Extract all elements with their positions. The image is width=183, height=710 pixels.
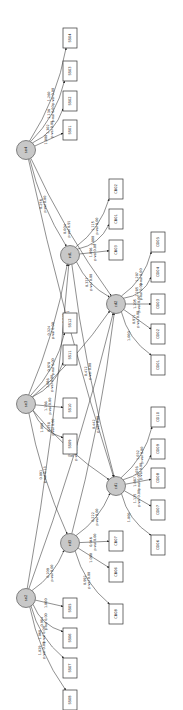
- svg-text:p-val 0.00: p-val 0.00: [51, 88, 55, 105]
- latent-node-cd1: cd1: [107, 477, 126, 496]
- observed-node-cd10: CD10: [151, 407, 165, 427]
- svg-text:CB03: CB03: [114, 245, 118, 255]
- svg-text:p-val 0.00: p-val 0.00: [136, 311, 140, 328]
- svg-text:CD07: CD07: [156, 505, 160, 515]
- svg-text:p-val 0.00: p-val 0.00: [42, 642, 46, 659]
- edge-label: 1.166p-val 0.00: [44, 398, 52, 415]
- latent-node-rd3: rd3: [61, 534, 80, 553]
- svg-text:p-val 0.00: p-val 0.00: [140, 447, 144, 464]
- svg-text:SS05: SS05: [68, 603, 72, 612]
- svg-text:1.000: 1.000: [40, 423, 44, 433]
- observed-node-cd05: CD05: [151, 232, 165, 252]
- svg-text:p-val 0.00: p-val 0.00: [51, 322, 55, 339]
- edge-label: 1.087p-val 0.00: [133, 473, 141, 490]
- svg-text:CD06: CD06: [156, 539, 160, 550]
- observed-node-ss10: SS10: [63, 398, 77, 418]
- edge-label: 0.004p-val 0.91: [63, 221, 71, 238]
- edge-label: 0.946p-val 0.00: [89, 533, 97, 550]
- svg-text:rd1: rd1: [68, 252, 72, 258]
- svg-text:SS03: SS03: [68, 66, 72, 75]
- observed-node-ss06: SS06: [63, 628, 77, 648]
- edge-label: 0.911p-val 0.00: [132, 311, 140, 328]
- svg-text:CB01: CB01: [114, 214, 118, 224]
- observed-node-cd08: CD08: [151, 468, 165, 488]
- svg-text:se2: se2: [24, 595, 28, 601]
- svg-text:CD03: CD03: [156, 299, 160, 309]
- svg-text:p-val 0.00: p-val 0.00: [51, 419, 55, 436]
- svg-text:SS04: SS04: [68, 33, 72, 43]
- svg-text:cd1: cd1: [114, 483, 118, 490]
- svg-text:p-val 0.00: p-val 0.00: [137, 490, 141, 507]
- svg-text:p-val 0.00: p-val 0.00: [87, 572, 91, 589]
- svg-text:CB02: CB02: [114, 184, 118, 194]
- svg-text:se4: se4: [24, 146, 28, 153]
- svg-text:SS08: SS08: [68, 695, 72, 705]
- svg-text:SS10: SS10: [68, 403, 72, 413]
- svg-text:SS09: SS09: [68, 439, 72, 449]
- svg-text:p-val 0.00: p-val 0.00: [137, 296, 141, 313]
- svg-text:p-val 0.00: p-val 0.00: [96, 416, 100, 433]
- latent-node-se2: se2: [17, 589, 36, 608]
- edge-label: 0.412p-val 0.00: [84, 363, 92, 380]
- observed-node-ss02: SS02: [63, 91, 77, 111]
- edge-label: 1.115p-val 0.00: [133, 490, 141, 507]
- svg-text:p-val 0.00: p-val 0.00: [50, 375, 54, 392]
- observed-node-cd04: CD04: [151, 262, 165, 282]
- observed-node-cb07: CB07: [109, 531, 123, 551]
- svg-text:1.000: 1.000: [44, 598, 48, 608]
- edge-label: 1.000: [89, 553, 93, 563]
- observed-node-ss09: SS09: [63, 434, 77, 454]
- edge-label: 1.205p-val 0.00: [133, 296, 141, 313]
- svg-text:cd2: cd2: [114, 301, 118, 308]
- edge-label: 0.978p-val 0.00: [47, 358, 55, 375]
- edge-label: 1.115p-val 0.00: [91, 217, 99, 234]
- svg-text:CB08: CB08: [114, 609, 118, 619]
- svg-text:CB06: CB06: [114, 567, 118, 577]
- edge-label: 1.000: [44, 135, 48, 145]
- svg-text:p-val 0.00: p-val 0.00: [51, 358, 55, 375]
- edge-label: 0.256p-val 0.00: [39, 196, 47, 213]
- svg-text:SS12: SS12: [68, 318, 72, 327]
- svg-text:p-val 0.00: p-val 0.00: [93, 533, 97, 550]
- edge-label: 0.222p-val 0.00: [91, 509, 99, 526]
- svg-text:p-val 0.00: p-val 0.00: [48, 398, 52, 415]
- edge-label: 1.029p-val 0.00: [38, 642, 46, 659]
- path-diagram: 1.260p-val 0.001.136p-val 0.001.302p-val…: [0, 0, 183, 710]
- svg-text:SS06: SS06: [68, 633, 72, 643]
- svg-text:CD10: CD10: [156, 411, 160, 422]
- svg-text:CD09: CD09: [156, 443, 160, 454]
- edge-label: 1.000: [127, 512, 131, 522]
- svg-text:p-val 0.00: p-val 0.00: [50, 565, 54, 582]
- svg-text:p-val 0.00: p-val 0.00: [43, 196, 47, 213]
- svg-text:SS01: SS01: [68, 125, 72, 134]
- edge-label: 0.258p-val 0.00: [47, 419, 55, 436]
- path-edge-se4-rd1: [30, 159, 67, 246]
- svg-text:CB07: CB07: [114, 536, 118, 546]
- latent-node-cd2: cd2: [107, 295, 126, 314]
- svg-text:SS11: SS11: [68, 350, 72, 359]
- observed-node-ss05: SS05: [63, 598, 77, 618]
- edge-label: 0.377p-val 0.00: [85, 274, 93, 291]
- observed-node-cb03: CB03: [109, 240, 123, 260]
- observed-node-cb02: CB02: [109, 179, 123, 199]
- edge-label: 1.000: [40, 423, 44, 433]
- observed-node-ss08: SS08: [63, 690, 77, 710]
- edge-label: 1.260p-val 0.00: [47, 88, 55, 105]
- edge-label: 0.442p-val 0.00: [92, 416, 100, 433]
- svg-text:CD04: CD04: [156, 266, 160, 277]
- svg-text:p-val 0.00: p-val 0.00: [139, 268, 143, 285]
- edge-label: 0.209p-val 0.00: [46, 565, 54, 582]
- svg-text:SS07: SS07: [68, 663, 72, 672]
- svg-text:p-val 0.00: p-val 0.00: [88, 363, 92, 380]
- observed-node-ss04: SS04: [63, 28, 77, 48]
- svg-text:p-val 0.91: p-val 0.91: [67, 221, 71, 238]
- observed-node-cb08: CB08: [109, 604, 123, 624]
- edge-label: 1.207p-val 0.00: [135, 268, 143, 285]
- svg-text:1.000: 1.000: [127, 512, 131, 522]
- svg-text:CD08: CD08: [156, 472, 160, 483]
- observed-node-cb01: CB01: [109, 209, 123, 229]
- svg-text:p-val 0.00: p-val 0.00: [137, 473, 141, 490]
- svg-text:1.000: 1.000: [44, 135, 48, 145]
- svg-text:p-val 0.00: p-val 0.00: [95, 509, 99, 526]
- observed-node-ss03: SS03: [63, 61, 77, 81]
